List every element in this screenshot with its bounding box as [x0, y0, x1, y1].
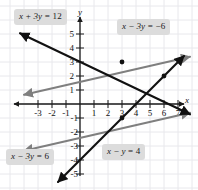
x-tick-label: -1	[62, 108, 70, 118]
equation-operator: −	[18, 151, 23, 161]
equation-term: 3y	[25, 151, 34, 161]
y-tick-label: -1	[71, 113, 79, 123]
equation-value: 4	[136, 146, 141, 156]
x-tick-label: -2	[48, 108, 56, 118]
x-tick-label: 5	[148, 108, 153, 118]
y-tick-label: -3	[71, 141, 79, 151]
y-axis-label: y	[78, 7, 82, 17]
equation-label-x-plus-3y-12: x + 3y = 12	[14, 9, 67, 25]
equation-operator: +	[26, 11, 31, 21]
equals-sign: =	[148, 21, 153, 31]
equation-value: 6	[44, 151, 49, 161]
y-tick-label: 4	[70, 43, 75, 53]
equation-operator: −	[114, 146, 119, 156]
equation-term: y	[121, 146, 125, 156]
x-tick-label: -3	[34, 108, 42, 118]
x-tick-label: 4	[134, 108, 139, 118]
equation-text: x	[11, 151, 15, 161]
y-tick-label: -5	[71, 169, 79, 179]
equation-value: 12	[52, 11, 61, 21]
equation-term: 3y	[33, 11, 42, 21]
equation-value: −6	[155, 21, 165, 31]
equation-term: 3y	[136, 21, 145, 31]
x-axis-label: x	[185, 95, 189, 105]
x-tick-label: 1	[92, 108, 97, 118]
intersection-dot	[162, 74, 167, 79]
equals-sign: =	[45, 11, 50, 21]
equation-label-x-minus-y-4: x − y = 4	[102, 144, 145, 160]
x-tick-label: 2	[106, 108, 111, 118]
y-tick-label: 5	[70, 29, 75, 39]
equation-operator: −	[129, 21, 134, 31]
equation-text: x	[107, 146, 111, 156]
x-tick-label: 6	[162, 108, 167, 118]
equation-label-x-minus-3y-6: x − 3y = 6	[6, 149, 54, 165]
equation-label-x-minus-3y-neg6: x − 3y = −6	[117, 19, 170, 35]
y-tick-label: 1	[70, 85, 75, 95]
equation-text: x	[122, 21, 126, 31]
equals-sign: =	[37, 151, 42, 161]
y-tick-label: -2	[71, 127, 79, 137]
equation-text: x	[19, 11, 23, 21]
equals-sign: =	[128, 146, 133, 156]
intersection-dot	[120, 60, 125, 65]
graph-figure: -3 -2 -1 1 2 3 4 5 6 7 5 4 3 2 1 -1 -2 -…	[0, 0, 198, 190]
intersection-dot	[120, 116, 125, 121]
y-tick-label: 2	[70, 71, 75, 81]
